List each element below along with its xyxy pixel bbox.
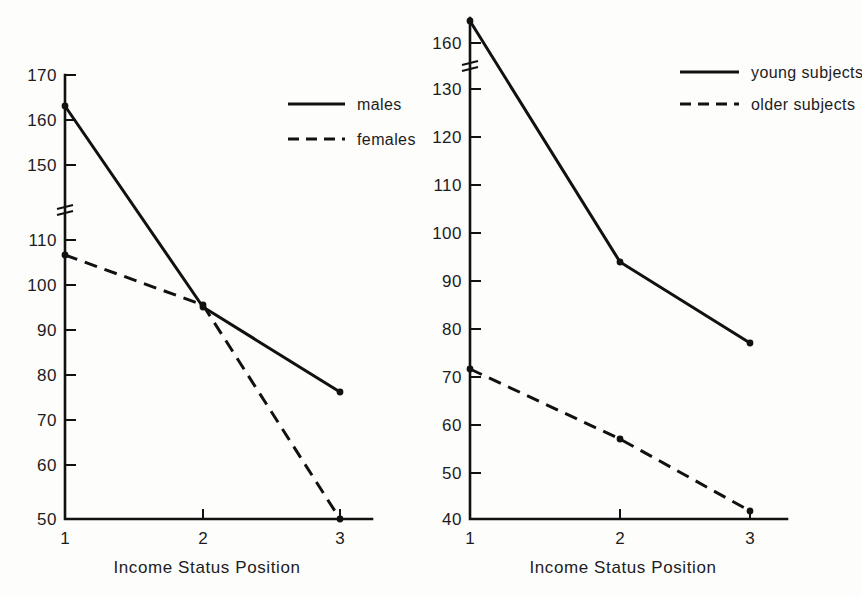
right-series-older (467, 366, 754, 515)
right-ytick-90: 90 (442, 272, 462, 291)
right-series-young (467, 18, 754, 347)
left-x-tickmarks (203, 509, 340, 519)
left-females-point-3 (337, 516, 344, 523)
left-ytick-170: 170 (27, 66, 57, 85)
left-xtick-1: 1 (60, 529, 69, 548)
right-y-tickmarks (470, 43, 481, 473)
left-ytick-70: 70 (37, 411, 57, 430)
right-ytick-160: 160 (432, 34, 462, 53)
left-legend: males females (288, 96, 416, 148)
chart-panel-left: 170 160 150 110 100 90 80 70 60 50 1 2 3… (0, 0, 431, 597)
left-xtick-2: 2 (198, 529, 207, 548)
right-young-point-3 (747, 340, 754, 347)
left-females-point-1 (62, 252, 69, 259)
left-ytick-60: 60 (37, 456, 57, 475)
right-legend: young subjects older subjects (680, 64, 862, 113)
right-ytick-80: 80 (442, 320, 462, 339)
left-ytick-150: 150 (27, 156, 57, 175)
left-ytick-90: 90 (37, 321, 57, 340)
right-young-point-2 (617, 259, 624, 266)
right-ytick-70: 70 (442, 368, 462, 387)
right-ytick-40: 40 (442, 510, 462, 529)
left-ytick-80: 80 (37, 366, 57, 385)
left-legend-label-dashed: females (357, 131, 416, 148)
left-xaxis-title: Income Status Position (113, 558, 300, 577)
right-older-point-3 (747, 508, 754, 515)
right-ytick-50: 50 (442, 464, 462, 483)
left-legend-label-solid: males (357, 96, 402, 113)
right-xtick-2: 2 (615, 529, 624, 548)
left-axes (57, 75, 372, 519)
left-y-tickmarks (65, 75, 76, 465)
right-ytick-60: 60 (442, 416, 462, 435)
figure-canvas: 170 160 150 110 100 90 80 70 60 50 1 2 3… (0, 0, 862, 597)
left-males-point-1 (62, 103, 69, 110)
left-series-males (62, 103, 344, 396)
left-ytick-110: 110 (28, 231, 57, 250)
right-older-point-2 (617, 436, 624, 443)
left-series-females (62, 252, 344, 523)
right-ytick-130: 130 (432, 80, 462, 99)
right-young-point-1 (467, 18, 474, 25)
right-xtick-3: 3 (745, 529, 754, 548)
left-axis-lines (65, 75, 372, 519)
chart-panel-right: 160 130 120 110 100 90 80 70 60 50 40 1 … (431, 0, 862, 597)
right-legend-label-dashed: older subjects (751, 96, 855, 113)
right-xaxis-title: Income Status Position (529, 558, 716, 577)
left-females-point-2 (200, 302, 207, 309)
left-xtick-3: 3 (335, 529, 344, 548)
right-axes (462, 18, 787, 519)
left-males-point-3 (337, 389, 344, 396)
right-x-tickmarks (620, 509, 750, 519)
left-ytick-100: 100 (27, 276, 57, 295)
right-ytick-100: 100 (432, 224, 462, 243)
right-ytick-120: 120 (432, 128, 462, 147)
right-xtick-1: 1 (465, 529, 474, 548)
right-older-point-1 (467, 366, 474, 373)
right-legend-label-solid: young subjects (751, 64, 862, 81)
right-ytick-110: 110 (433, 176, 462, 195)
left-ytick-50: 50 (37, 510, 57, 529)
left-ytick-160: 160 (27, 111, 57, 130)
